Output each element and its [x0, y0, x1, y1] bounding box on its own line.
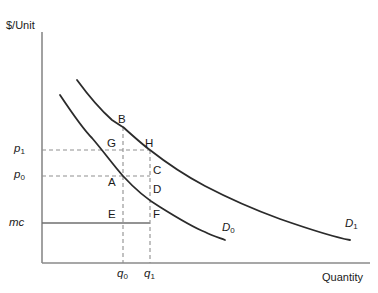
tick-label-q0: q0 [117, 268, 128, 280]
point-label-a: A [108, 177, 116, 189]
y-axis-label: $/Unit [6, 20, 35, 31]
tick-label-q0-sub: 0 [123, 272, 127, 281]
point-label-g: G [107, 138, 116, 150]
point-label-c: C [153, 165, 161, 177]
tick-label-p1-sub: 1 [20, 147, 24, 156]
tick-label-p0-sub: 0 [20, 173, 24, 182]
curve-label-d0: D0 [222, 222, 235, 234]
point-label-f: F [153, 209, 160, 221]
point-label-e: E [108, 209, 116, 221]
curve-label-d1: D1 [345, 218, 358, 230]
economics-demand-diagram: $/Unit Quantity p1 p0 mc q0 q1 B G H A C… [0, 0, 378, 293]
tick-label-p1: p1 [14, 143, 25, 155]
tick-label-q1: q1 [144, 268, 155, 280]
curve-label-d0-sub: 0 [230, 226, 234, 235]
tick-label-mc: mc [9, 217, 24, 229]
x-axis-label: Quantity [322, 272, 363, 283]
tick-label-q1-sub: 1 [150, 272, 154, 281]
demand-curve-d0 [60, 95, 225, 240]
tick-label-p0: p0 [14, 169, 25, 181]
point-label-b: B [118, 114, 126, 126]
plot-canvas [0, 0, 378, 293]
point-label-h: H [145, 138, 153, 150]
demand-curve-d1 [77, 80, 350, 240]
curve-label-d1-sub: 1 [353, 222, 357, 231]
point-label-d: D [153, 184, 161, 196]
